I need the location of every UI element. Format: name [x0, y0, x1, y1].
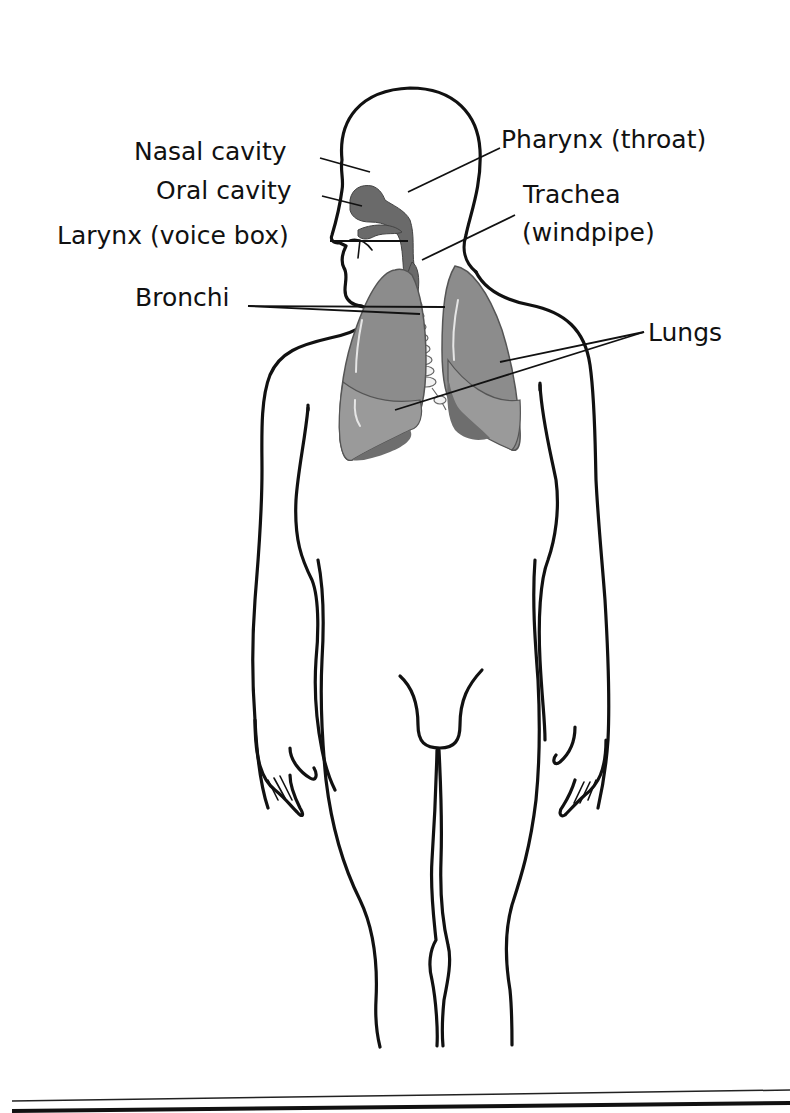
respiratory-system-diagram: Nasal cavity Oral cavity Larynx (voice b… [0, 0, 790, 1113]
rule-thin [12, 1090, 790, 1101]
inner-leg-right [439, 750, 450, 1046]
label-nasal-cavity: Nasal cavity [134, 137, 287, 166]
label-lungs: Lungs [648, 318, 722, 347]
label-bronchi: Bronchi [135, 283, 230, 312]
left-inner-arm [296, 408, 335, 790]
oral-cavity-shape [358, 225, 402, 239]
page-rules [12, 1090, 790, 1111]
rule-thick [12, 1103, 790, 1111]
groin-outline [400, 670, 482, 748]
label-trachea-windpipe: (windpipe) [522, 218, 655, 247]
label-trachea: Trachea [522, 180, 621, 209]
left-hand [255, 720, 316, 815]
left-torso-side [318, 560, 380, 1047]
label-pharynx: Pharynx (throat) [501, 125, 706, 154]
leader-nasal [320, 158, 370, 172]
right-inner-arm [539, 385, 557, 740]
label-oral-cavity: Oral cavity [156, 176, 292, 205]
leader-lungs-1 [500, 332, 644, 362]
label-larynx: Larynx (voice box) [57, 221, 289, 250]
leader-pharynx [408, 148, 500, 192]
right-torso-side [506, 560, 539, 1045]
inner-leg-left [430, 750, 437, 1046]
